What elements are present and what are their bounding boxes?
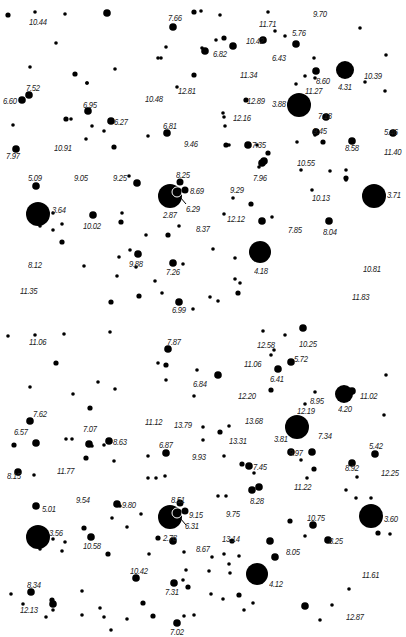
faint-star	[32, 473, 36, 477]
faint-star	[211, 247, 215, 251]
medium-star	[308, 448, 316, 456]
faint-star	[384, 53, 388, 57]
companion-star	[182, 508, 189, 515]
faint-star	[156, 361, 160, 365]
medium-star	[85, 440, 93, 448]
faint-star	[268, 387, 273, 392]
magnitude-label: 8.69	[190, 187, 204, 196]
faint-star	[177, 224, 181, 228]
faint-star	[239, 461, 244, 466]
faint-star	[224, 494, 228, 498]
medium-star	[113, 500, 121, 508]
faint-star	[105, 551, 110, 556]
magnitude-label: 8.04	[323, 228, 337, 237]
faint-star	[182, 550, 186, 554]
faint-star	[312, 56, 316, 60]
magnitude-label: 7.96	[253, 174, 267, 183]
faint-star	[248, 201, 253, 206]
magnitude-label: 11.06	[244, 360, 261, 369]
faint-star	[237, 554, 241, 558]
faint-star	[294, 82, 298, 86]
faint-star	[51, 608, 55, 612]
faint-star	[222, 212, 226, 216]
magnitude-label: 13.79	[174, 421, 192, 430]
magnitude-label: 11.35	[20, 287, 37, 296]
magnitude-label: 7.31	[165, 588, 179, 597]
faint-star	[165, 232, 170, 237]
bright-star	[335, 385, 353, 403]
magnitude-label: 5.01	[42, 505, 56, 514]
medium-star	[103, 9, 111, 17]
magnitude-label: 6.84	[193, 380, 207, 389]
magnitude-label: 5.42	[369, 442, 383, 451]
faint-star	[63, 12, 67, 16]
magnitude-label: 9.97	[289, 449, 303, 458]
faint-star	[287, 518, 292, 523]
medium-star	[32, 502, 40, 510]
faint-star	[191, 9, 196, 14]
faint-star	[147, 552, 151, 556]
magnitude-label: 7.66	[168, 14, 182, 23]
magnitude-label: 8.12	[28, 261, 42, 270]
magnitude-label: 7.18	[318, 112, 332, 121]
faint-star	[85, 81, 89, 85]
magnitude-label: 10.02	[83, 222, 101, 231]
faint-star	[125, 525, 129, 529]
faint-star	[185, 584, 190, 589]
faint-star	[236, 592, 241, 597]
faint-star	[113, 67, 117, 71]
faint-star	[84, 137, 88, 141]
medium-star	[245, 462, 253, 470]
magnitude-label: 6.95	[83, 101, 97, 110]
faint-star	[303, 74, 307, 78]
faint-star	[382, 413, 386, 417]
magnitude-label: 12.20	[238, 392, 256, 401]
faint-star	[63, 540, 67, 544]
faint-star	[227, 562, 231, 566]
medium-star	[18, 96, 26, 104]
magnitude-label: 9.54	[76, 496, 90, 505]
faint-star	[102, 443, 106, 447]
magnitude-label: 7.87	[167, 338, 181, 347]
magnitude-label: 12.89	[247, 97, 265, 106]
medium-star	[105, 437, 113, 445]
medium-star	[169, 23, 177, 31]
magnitude-label: 10.75	[307, 514, 325, 523]
faint-star	[233, 256, 237, 260]
magnitude-label: 11.06	[29, 338, 46, 347]
faint-star	[311, 466, 316, 471]
magnitude-label: 9.75	[226, 510, 240, 519]
faint-star	[90, 124, 94, 128]
magnitude-label: 9.80	[122, 501, 136, 510]
magnitude-label: 12.87	[346, 613, 364, 622]
medium-star	[32, 439, 40, 447]
faint-star	[83, 455, 88, 460]
medium-star	[244, 141, 252, 149]
faint-star	[192, 613, 196, 617]
faint-star	[207, 569, 211, 573]
faint-star	[235, 290, 240, 295]
medium-star	[229, 42, 237, 50]
magnitude-label: 7.85	[288, 226, 302, 235]
faint-star	[9, 592, 13, 596]
faint-star	[383, 89, 387, 93]
magnitude-label: 7.07	[83, 425, 97, 434]
faint-star	[33, 10, 37, 14]
magnitude-label: 10.44	[29, 18, 47, 27]
medium-star	[87, 533, 95, 541]
faint-star	[159, 56, 163, 60]
faint-star	[87, 405, 92, 410]
medium-star	[274, 365, 282, 373]
magnitude-label: 10.91	[54, 144, 72, 153]
medium-star	[258, 217, 266, 225]
magnitude-label: 12.12	[227, 215, 245, 224]
magnitude-label: 6.82	[213, 50, 227, 59]
bright-star	[249, 241, 271, 263]
medium-star	[371, 450, 379, 458]
faint-star	[28, 65, 32, 69]
magnitude-label: 9.25	[113, 174, 127, 183]
magnitude-label: 8.37	[196, 225, 210, 234]
magnitude-label: 5.72	[294, 355, 308, 364]
faint-star	[181, 262, 185, 266]
faint-star	[210, 555, 214, 559]
